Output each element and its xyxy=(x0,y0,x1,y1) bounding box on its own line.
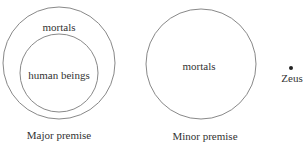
major-premise-caption: Major premise xyxy=(27,129,92,141)
major-premise-diagram: mortals human beings Major premise xyxy=(3,7,115,141)
circle-label: mortals xyxy=(183,60,216,72)
inner-circle-label: human beings xyxy=(28,69,89,81)
minor-premise-caption: Minor premise xyxy=(172,130,237,142)
point-label: Zeus xyxy=(281,72,302,84)
venn-diagram: mortals human beings Major premise morta… xyxy=(0,0,308,146)
outer-circle-label: mortals xyxy=(43,21,76,33)
zeus-point xyxy=(289,66,293,70)
minor-premise-diagram: mortals Zeus Minor premise xyxy=(146,9,303,142)
